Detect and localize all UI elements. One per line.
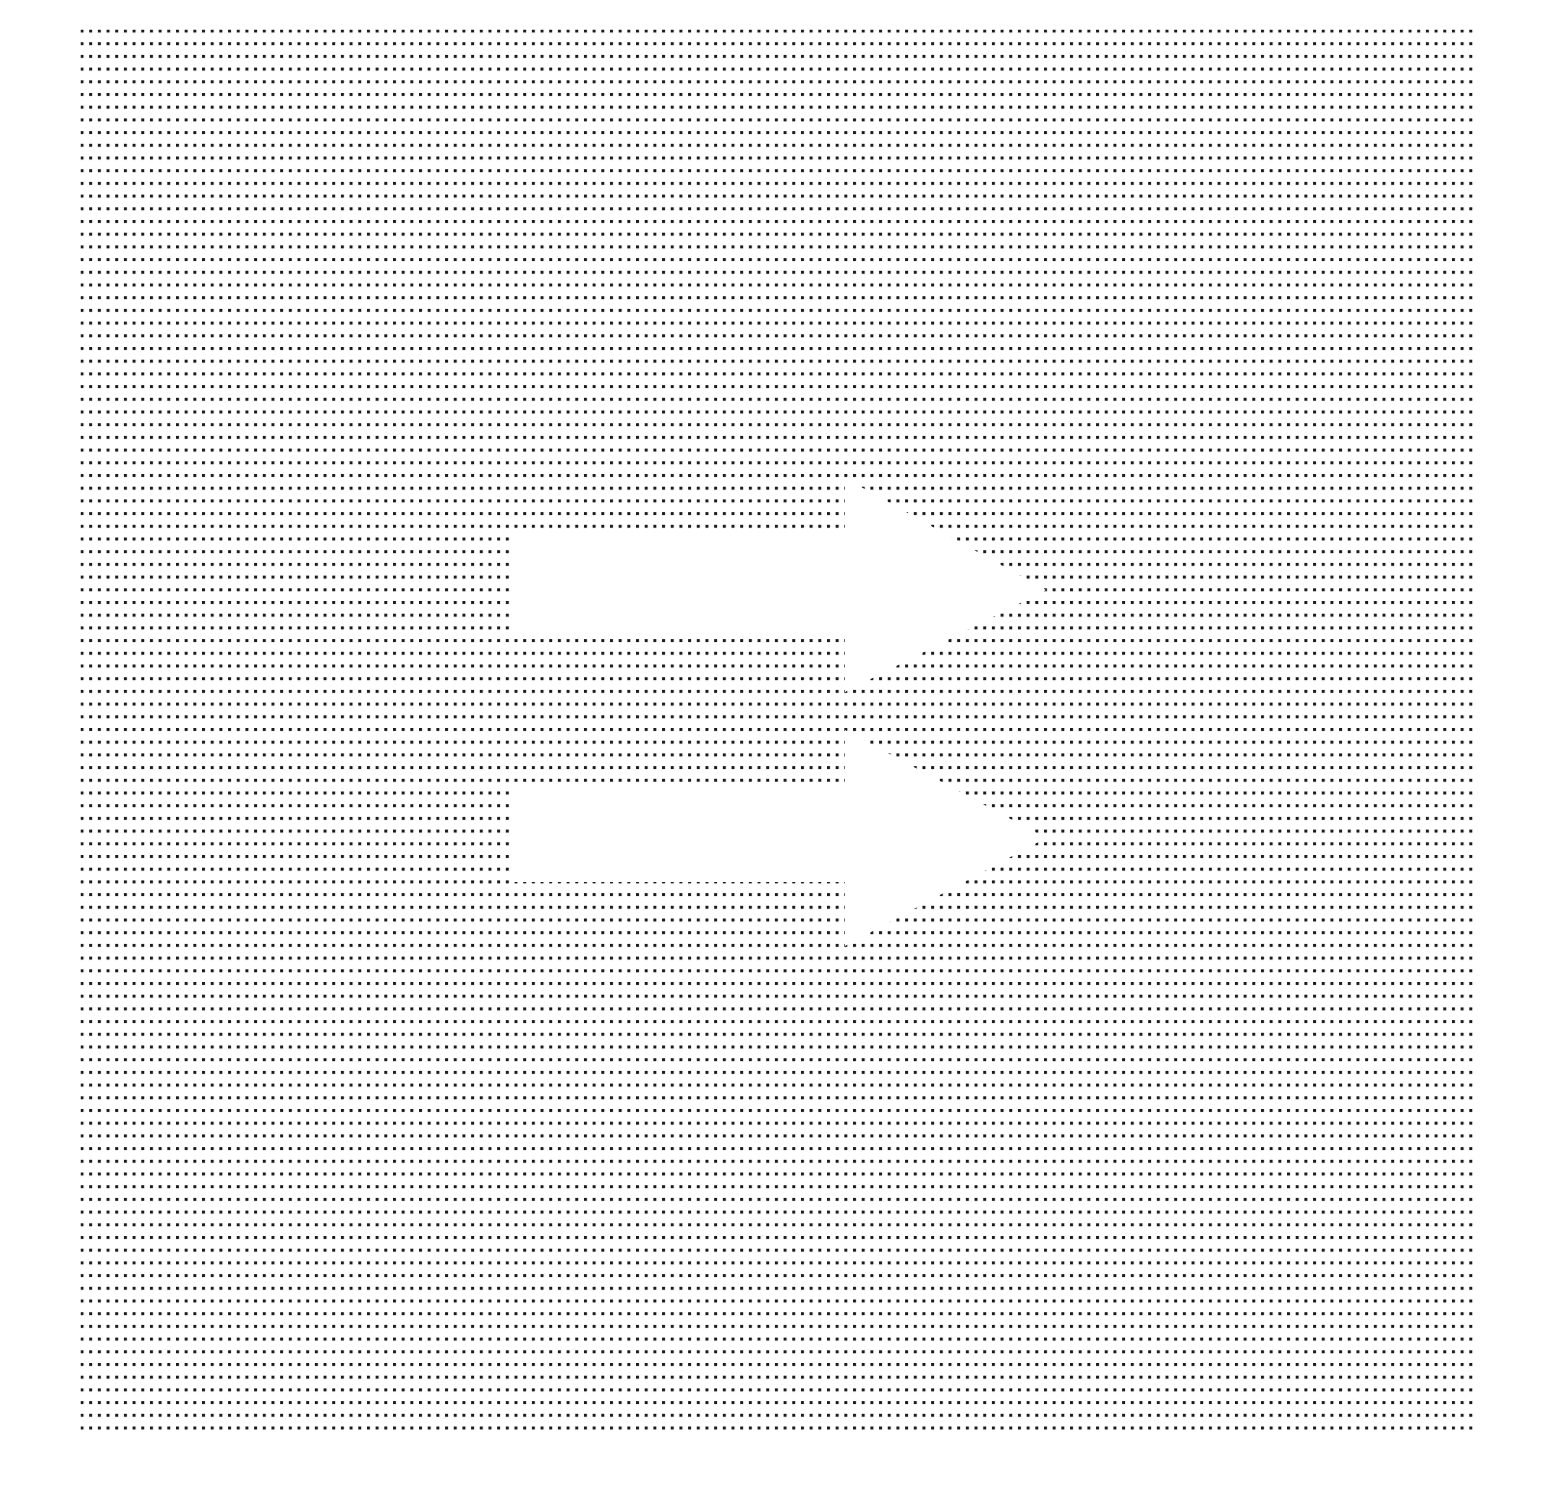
dot-grid xyxy=(81,30,1474,1434)
dot-grid-figure xyxy=(0,0,1544,1495)
